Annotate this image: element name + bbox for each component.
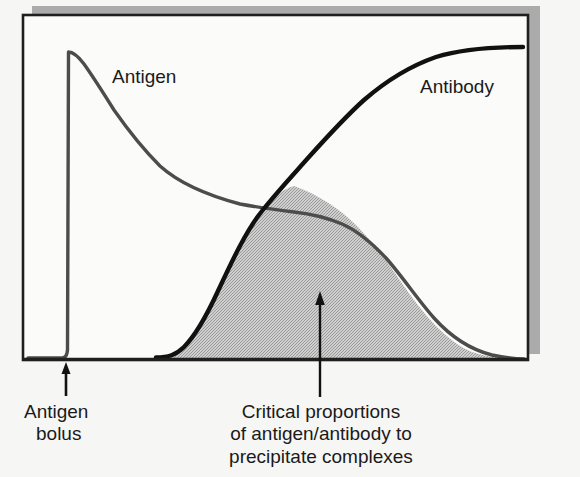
critical-proportions-caption-line-1: Critical proportions (196, 401, 446, 423)
immune-complex-figure: Antigen Antibody Antigen bolus Critical … (0, 0, 580, 477)
critical-proportions-caption-line-3: precipitate complexes (196, 446, 446, 468)
antigen-bolus-caption-line-2: bolus (24, 423, 88, 445)
critical-proportions-caption: Critical proportions of antigen/antibody… (196, 401, 446, 468)
critical-proportions-caption-line-2: of antigen/antibody to (196, 423, 446, 445)
antigen-bolus-caption-line-1: Antigen (24, 401, 88, 423)
antibody-series-label: Antibody (420, 76, 494, 98)
antigen-bolus-caption: Antigen bolus (24, 401, 88, 446)
antigen-series-label: Antigen (112, 66, 176, 88)
